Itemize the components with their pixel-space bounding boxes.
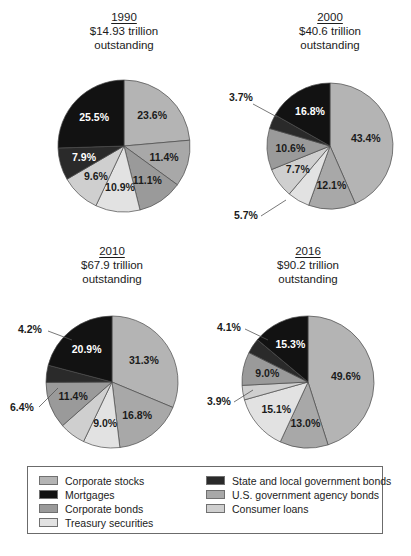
legend-label: Corporate stocks [65,475,144,487]
legend-swatch-icon [39,504,58,513]
pie-slice-label: 7.7% [286,163,311,175]
pie-slice-label: 11.4% [59,390,89,402]
legend-column-left: Corporate stocksMortgagesCorporate bonds… [39,474,153,530]
pie-slice-label: 9.0% [255,367,280,379]
legend-label: Consumer loans [232,503,308,515]
legend-label: Treasury securities [65,517,153,529]
legend-swatch-icon [206,490,225,499]
legend-swatch-icon [39,518,58,527]
pie-slice-label: 11.4% [149,151,179,163]
legend-item: Corporate stocks [39,474,153,488]
pie-slice-label: 7.9% [72,151,97,163]
legend-item: U.S. government agency bonds [206,488,391,502]
legend-item: Mortgages [39,488,153,502]
legend-swatch-icon [39,476,58,485]
legend-item: Treasury securities [39,516,153,530]
pie-slice-label: 10.6% [276,142,306,154]
legend-label: Mortgages [65,489,115,501]
pie-slice-label: 31.3% [129,354,159,366]
pie-slice-label: 15.1% [261,403,291,415]
legend-label: Corporate bonds [65,503,143,515]
pie-slice-label: 15.3% [276,338,306,350]
pie-slice-label: 12.1% [317,179,347,191]
pie-chart-2000: 43.4%12.1%5.7%7.7%10.6%3.7%16.8% [229,83,393,221]
legend-swatch-icon [206,504,225,513]
pie-chart-1990: 23.6%11.4%11.1%10.9%9.6%7.9%25.5% [58,80,190,212]
pie-chart-figure: 1990 $14.93 trillion outstanding 2000 $4… [0,0,411,556]
pie-chart-2016: 49.6%13.0%15.1%3.9%9.0%4.1%15.3% [207,316,374,448]
legend-column-right: State and local government bondsU.S. gov… [206,474,391,516]
pie-slice-callout-label: 5.7% [234,209,259,221]
pie-slice-label: 9.6% [84,170,109,182]
pie-slice-label: 9.0% [93,417,118,429]
pie-slice-label: 16.8% [295,105,325,117]
pie-slice-callout-label: 3.9% [207,395,232,407]
callout-leader-line [253,104,277,117]
legend-label: U.S. government agency bonds [232,489,379,501]
pie-slice-label: 23.6% [137,109,167,121]
pie-slice-label: 49.6% [331,370,361,382]
legend-item: Consumer loans [206,502,391,516]
pie-slice-label: 25.5% [79,111,109,123]
pie-slice-label: 20.9% [72,343,102,355]
legend-item: Corporate bonds [39,502,153,516]
pie-slice-callout-label: 3.7% [229,91,254,103]
legend: Corporate stocksMortgagesCorporate bonds… [27,466,383,534]
pie-slice-label: 11.1% [133,174,163,186]
pie-slice-label: 10.9% [105,181,135,193]
pie-slice-callout-label: 4.2% [18,323,43,335]
legend-swatch-icon [206,476,225,485]
callout-leader-line [261,200,286,216]
pie-slice-label: 43.4% [351,132,381,144]
legend-item: State and local government bonds [206,474,391,488]
pie-chart-2010: 31.3%16.8%9.0%6.4%11.4%4.2%20.9% [10,316,178,448]
legend-label: State and local government bonds [232,475,391,487]
pie-slice-callout-label: 6.4% [10,401,35,413]
pie-slice-callout-label: 4.1% [217,321,242,333]
pie-slice-label: 16.8% [122,409,152,421]
pie-slice-label: 13.0% [291,417,321,429]
legend-swatch-icon [39,490,58,499]
